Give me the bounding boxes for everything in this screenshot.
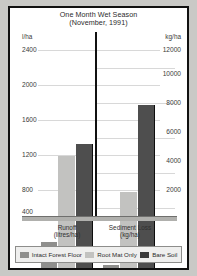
right-tick-12000: 12000 [163,46,181,53]
legend-swatch-icon-root-mat-only [85,252,94,258]
group-label-runoff: Runoff (litres/ha) [40,224,94,239]
bar-sediment-bare-soil [138,105,155,268]
chart-title: One Month Wet Season (November, 1991) [10,11,187,26]
left-tick-2000: 2000 [22,81,37,88]
chart-title-line-1: One Month Wet Season [10,11,187,19]
chart-figure: One Month Wet Season (November, 1991) l/… [8,6,189,270]
bar-sediment-intact-forest-floor [103,265,119,268]
legend-item-intact-forest-floor: Intact Forest Floor [20,251,82,258]
left-tick-800: 800 [22,186,33,193]
left-tick-400: 400 [22,208,33,215]
legend-item-root-mat-only: Root Mat Only [85,251,137,258]
legend-swatch-icon-intact-forest-floor [20,252,29,258]
gridline-r1 [95,68,175,69]
group-label-sediment-unit: (kg/ha) [102,231,158,238]
right-tick-2000: 2000 [166,186,181,193]
group-label-runoff-name: Runoff [58,224,77,231]
gridline-1 [38,50,160,51]
right-tick-4000: 4000 [166,157,181,164]
right-axis-unit-label: kg/ha [165,33,181,40]
chart-legend: Intact Forest Floor Root Mat Only Bare S… [15,246,182,263]
bar-group-runoff [40,84,94,268]
right-tick-8000: 8000 [166,99,181,106]
chart-title-subtitle: (November, 1991) [10,19,187,27]
legend-label-root-mat-only: Root Mat Only [97,251,137,258]
left-tick-1600: 1600 [22,116,37,123]
legend-swatch-icon-bare-soil [140,252,149,258]
legend-label-bare-soil: Bare Soil [152,251,177,258]
group-divider-line [95,32,97,216]
left-axis-unit-label: l/ha [22,33,32,40]
legend-label-intact-forest-floor: Intact Forest Floor [32,251,82,258]
left-tick-1200: 1200 [22,151,37,158]
x-axis-baseline [22,216,177,221]
bar-group-sediment-loss [102,84,158,268]
right-tick-10000: 10000 [163,70,181,77]
group-label-sediment-loss: Sediment Loss (kg/ha) [102,224,158,239]
left-tick-2400: 2400 [22,46,37,53]
group-label-sediment-name: Sediment Loss [109,224,151,231]
group-label-runoff-unit: (litres/ha) [40,231,94,238]
legend-item-bare-soil: Bare Soil [140,251,177,258]
right-tick-6000: 6000 [166,128,181,135]
